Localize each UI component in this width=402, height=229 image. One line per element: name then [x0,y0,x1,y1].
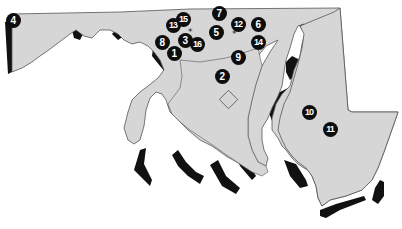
map-marker-8[interactable]: 8 [155,35,170,50]
map-svg [0,0,402,229]
map-marker-11[interactable]: 11 [323,122,338,137]
map-marker-5[interactable]: 5 [209,25,224,40]
maryland-map: * * 1 2 3 4 5 6 7 8 9 10 11 12 13 14 15 … [0,0,402,229]
map-marker-15[interactable]: 15 [176,12,191,27]
map-marker-1[interactable]: 1 [167,46,182,61]
map-marker-12[interactable]: 12 [231,17,246,32]
map-marker-7[interactable]: 7 [212,6,227,21]
map-marker-16[interactable]: 16 [190,37,205,52]
map-marker-10[interactable]: 10 [302,105,317,120]
map-marker-14[interactable]: 14 [251,35,266,50]
map-marker-6[interactable]: 6 [251,17,266,32]
map-marker-4[interactable]: 4 [6,13,21,28]
map-marker-2[interactable]: 2 [215,69,230,84]
map-marker-9[interactable]: 9 [231,50,246,65]
